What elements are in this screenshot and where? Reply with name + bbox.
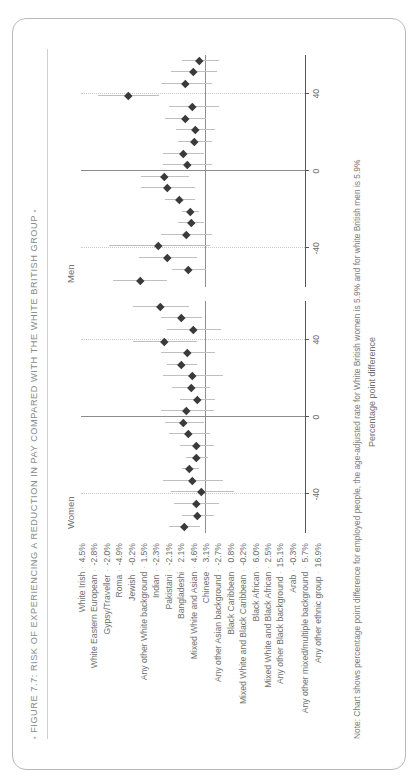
category-name: Jewish bbox=[127, 575, 137, 601]
category-value: 3.1% bbox=[201, 543, 211, 563]
category-label-row: Any other mixed/multiple background · 5.… bbox=[299, 543, 311, 713]
axis-tick-label: 40 bbox=[311, 89, 321, 99]
leader-dots: · bbox=[238, 565, 248, 574]
data-point bbox=[188, 372, 196, 380]
category-value: 5.7% bbox=[300, 543, 310, 563]
category-name: Mixed White and Black Caribbean bbox=[238, 575, 248, 704]
category-label-row: Gypsy/Traveller · -2.0% bbox=[101, 543, 113, 634]
axis-tick-label: 0 bbox=[311, 415, 321, 420]
panel-title-men: Men bbox=[65, 265, 76, 283]
leader-dots: · bbox=[176, 563, 186, 572]
category-value: 2.1% bbox=[176, 543, 186, 563]
page-title: ▪ FIGURE 7.7: RISK OF EXPERIENCING A RED… bbox=[29, 209, 39, 739]
category-label-row: Jewish · -0.2% bbox=[126, 543, 138, 601]
category-value: -0.2% bbox=[127, 543, 137, 565]
data-point bbox=[193, 395, 201, 403]
axis-tick bbox=[305, 247, 309, 248]
figure-note: Note: Chart shows percentage point diffe… bbox=[351, 39, 363, 739]
figure-title-text: FIGURE 7.7: RISK OF EXPERIENCING A REDUC… bbox=[29, 215, 39, 733]
data-point bbox=[183, 349, 191, 357]
panel-women: Women -40040 bbox=[67, 301, 325, 533]
data-point bbox=[160, 173, 168, 181]
category-label-row: Bangladeshi · 2.1% bbox=[175, 543, 187, 619]
category-label-row: Any other Asian background · -2.7% bbox=[212, 543, 224, 682]
category-name: Arab bbox=[288, 575, 298, 593]
leader-dots: · bbox=[77, 563, 87, 572]
category-value: -4.9% bbox=[114, 543, 124, 565]
data-point bbox=[179, 149, 187, 157]
data-point bbox=[136, 277, 144, 285]
data-point bbox=[177, 361, 185, 369]
category-value: 0.8% bbox=[226, 543, 236, 563]
category-name: Indian bbox=[151, 575, 161, 598]
leader-dots: · bbox=[300, 563, 310, 572]
data-point bbox=[180, 523, 188, 531]
figure-card: ▪ FIGURE 7.7: RISK OF EXPERIENCING A RED… bbox=[12, 18, 406, 770]
data-point bbox=[184, 430, 192, 438]
data-point bbox=[157, 303, 165, 311]
category-value: 16.9% bbox=[313, 543, 323, 567]
data-point bbox=[192, 500, 200, 508]
leader-dots: · bbox=[114, 565, 124, 574]
category-label-row: Black African · 6.0% bbox=[250, 543, 262, 621]
category-label-row: Chinese · 3.1% bbox=[200, 543, 212, 603]
category-label-row: Mixed White and Black African · 2.5% bbox=[262, 543, 274, 688]
category-label-row: Any other ethnic group · 16.9% bbox=[312, 543, 324, 663]
category-name: Any other Asian background bbox=[213, 575, 223, 683]
data-point bbox=[154, 242, 162, 250]
category-name: Any other White background bbox=[139, 572, 149, 680]
axis-tick bbox=[305, 416, 309, 417]
x-axis bbox=[305, 55, 306, 287]
category-name: Mixed White and Black African bbox=[263, 572, 273, 688]
data-point bbox=[187, 384, 195, 392]
data-point bbox=[163, 184, 171, 192]
category-label-column: White Irish · 4.5%White Eastern European… bbox=[67, 543, 325, 739]
axis-tick-label: 0 bbox=[311, 169, 321, 174]
data-point bbox=[189, 326, 197, 334]
data-point bbox=[195, 57, 203, 65]
category-name: Gypsy/Traveller bbox=[102, 575, 112, 635]
category-value: -2.8% bbox=[89, 543, 99, 565]
data-point bbox=[181, 115, 189, 123]
category-label-row: White Irish · 4.5% bbox=[76, 543, 88, 612]
gridline bbox=[81, 493, 305, 494]
data-point bbox=[176, 196, 184, 204]
category-label-row: Pakistani · -2.1% bbox=[163, 543, 175, 609]
data-point bbox=[193, 511, 201, 519]
data-point bbox=[182, 231, 190, 239]
chart-area: White Irish · 4.5%White Eastern European… bbox=[67, 45, 349, 739]
category-name: Chinese bbox=[201, 572, 211, 604]
leader-dots: · bbox=[127, 565, 137, 574]
rotated-figure-wrapper: ▪ FIGURE 7.7: RISK OF EXPERIENCING A RED… bbox=[0, 0, 420, 784]
data-point bbox=[179, 419, 187, 427]
panel-title-women: Women bbox=[65, 496, 76, 529]
category-label-row: Black Caribbean · 0.8% bbox=[225, 543, 237, 635]
category-label-row: White Eastern European · -2.8% bbox=[88, 543, 100, 668]
leader-dots: · bbox=[288, 565, 298, 574]
leader-dots: · bbox=[201, 563, 211, 572]
category-name: Any other mixed/multiple background bbox=[300, 572, 310, 713]
bullet-icon-end: ▪ bbox=[31, 209, 38, 212]
category-value: -2.0% bbox=[102, 543, 112, 565]
x-axis bbox=[305, 301, 306, 533]
category-label-row: Arab · -0.3% bbox=[287, 543, 299, 593]
category-name: White Eastern European bbox=[89, 575, 99, 669]
leader-dots: · bbox=[226, 563, 236, 572]
panel-men: Men -40040 bbox=[67, 55, 325, 287]
category-name: Roma bbox=[114, 575, 124, 598]
data-point bbox=[187, 219, 195, 227]
data-point bbox=[191, 126, 199, 134]
axis-tick bbox=[305, 339, 309, 340]
category-name: Pakistani bbox=[164, 575, 174, 610]
category-value: -0.2% bbox=[238, 543, 248, 565]
title-divider bbox=[47, 49, 48, 739]
data-point bbox=[190, 138, 198, 146]
leader-dots: · bbox=[189, 563, 199, 572]
category-name: Black African bbox=[251, 572, 261, 622]
category-value: -0.3% bbox=[288, 543, 298, 565]
gridline bbox=[81, 247, 305, 248]
data-point bbox=[185, 465, 193, 473]
data-point bbox=[183, 161, 191, 169]
data-point bbox=[189, 68, 197, 76]
category-value: 15.1% bbox=[275, 543, 285, 567]
